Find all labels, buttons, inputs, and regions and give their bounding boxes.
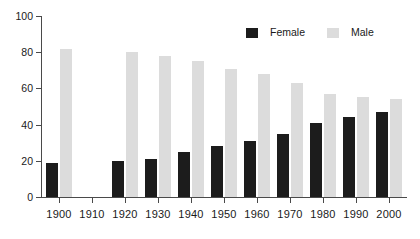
bar-male-1960 (258, 74, 270, 197)
y-axis-tick (36, 16, 41, 17)
y-axis-tick-label: 60 (0, 83, 33, 93)
y-axis-tick (36, 161, 41, 162)
bar-male-1920 (126, 52, 138, 197)
bar-female-1920 (112, 161, 124, 197)
bar-female-1940 (178, 152, 190, 197)
x-axis-tick (59, 198, 60, 203)
x-axis-tick (356, 198, 357, 203)
bar-female-1960 (244, 141, 256, 197)
legend-label: Male (351, 27, 374, 38)
x-axis-tick (389, 198, 390, 203)
y-axis-tick-label: 80 (0, 47, 33, 57)
bar-chart: 020406080100 190019101920193019401950196… (0, 0, 420, 239)
bar-male-1900 (60, 49, 72, 197)
bar-female-1900 (46, 163, 58, 197)
y-axis-tick (36, 52, 41, 53)
bar-male-2000 (390, 99, 402, 197)
bar-female-1930 (145, 159, 157, 197)
legend-swatch-female-icon (246, 28, 258, 38)
x-axis-tick (191, 198, 192, 203)
y-axis-tick-label: 0 (0, 192, 33, 202)
legend-swatch-male-icon (327, 28, 339, 38)
x-axis-tick (323, 198, 324, 203)
x-axis-tick (125, 198, 126, 203)
chart-legend: FemaleMale (246, 27, 374, 38)
legend-item-male[interactable]: Male (327, 27, 374, 38)
bar-female-2000 (376, 112, 388, 197)
bar-female-1980 (310, 123, 322, 197)
x-axis-tick (290, 198, 291, 203)
bar-female-1990 (343, 117, 355, 197)
bar-male-1950 (225, 69, 237, 198)
y-axis-tick (36, 197, 41, 198)
x-axis-tick (257, 198, 258, 203)
bar-male-1930 (159, 56, 171, 197)
plot-area (42, 16, 406, 197)
x-axis-tick-label: 2000 (367, 208, 411, 221)
bar-male-1990 (357, 97, 369, 197)
y-axis-tick (36, 88, 41, 89)
x-axis-tick (158, 198, 159, 203)
legend-item-female[interactable]: Female (246, 27, 305, 38)
x-axis-tick (224, 198, 225, 203)
y-axis-tick-label: 40 (0, 120, 33, 130)
y-axis-tick (36, 125, 41, 126)
x-axis-tick (92, 198, 93, 203)
bar-male-1980 (324, 94, 336, 197)
bar-male-1970 (291, 83, 303, 197)
y-axis-tick-label: 20 (0, 156, 33, 166)
legend-label: Female (270, 27, 305, 38)
bar-female-1970 (277, 134, 289, 197)
y-axis-tick-label: 100 (0, 11, 33, 21)
bar-male-1940 (192, 61, 204, 197)
bar-female-1950 (211, 146, 223, 197)
